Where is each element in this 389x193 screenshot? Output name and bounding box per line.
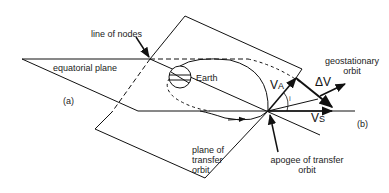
point-a-label: (a) [63,96,74,106]
line-of-nodes-label: line of nodes [91,29,142,39]
equatorial-plane-label: equatorial plane [53,63,117,73]
vs-label: VS [311,113,325,124]
earth-label: Earth [196,73,218,83]
point-b-label: (b) [357,119,368,129]
plane-of-transfer-label-line2: transfer [192,155,224,165]
va-label: VA [270,80,284,91]
apogee-pointer [270,115,278,152]
geo-orbit-segment [268,99,318,111]
plane-of-transfer-label-line3: orbit [192,165,224,175]
vs-label-sub: S [319,114,325,124]
apogee-label-line2: orbit [262,165,352,175]
geostationary-orbit-label-line2: orbit [322,66,382,76]
va-label-sub: A [278,81,284,91]
line-of-nodes-pointer [136,37,149,57]
apogee-label: apogee of transfer orbit [262,155,352,175]
geostationary-orbit-label-line1: geostationary [322,56,382,66]
inclination-label: i [289,94,291,104]
apogee-label-line1: apogee of transfer [262,155,352,165]
vs-label-main: V [311,111,319,125]
plane-of-transfer-label: plane of transfer orbit [192,145,224,175]
earth-icon [169,66,191,88]
geostationary-orbit-label: geostationary orbit [322,56,382,76]
inclination-arc [284,93,288,111]
delta-v-label: ΔV [315,77,331,87]
plane-of-transfer-label-line1: plane of [192,145,224,155]
va-label-main: V [270,78,278,92]
